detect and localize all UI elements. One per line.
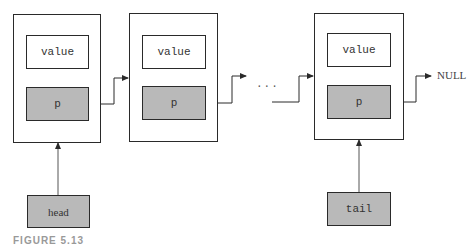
tail-label: tail [346, 203, 372, 215]
tail-pointer-box: tail [327, 192, 391, 226]
list-node-1 [13, 14, 101, 143]
node-1-value-label: value [41, 46, 74, 58]
null-terminator-label: NULL [437, 69, 466, 81]
node-1-pointer-label: p [54, 98, 61, 110]
node-3-pointer-label: p [356, 96, 363, 108]
head-pointer-box: head [27, 195, 90, 228]
node-2-value-label: value [157, 46, 190, 58]
head-label: head [48, 206, 69, 218]
node-3-pointer-field: p [327, 85, 391, 119]
ellipsis: ··· [256, 80, 279, 92]
node-2-pointer-label: p [171, 97, 178, 109]
list-node-2 [129, 13, 218, 142]
node-3-value-field: value [327, 33, 391, 67]
node-2-value-field: value [142, 35, 206, 69]
node-2-pointer-field: p [142, 86, 206, 120]
node-3-value-label: value [342, 44, 375, 56]
figure-caption: FIGURE 5.13 [13, 235, 84, 246]
node-1-pointer-field: p [26, 87, 89, 121]
node-1-value-field: value [26, 35, 89, 69]
